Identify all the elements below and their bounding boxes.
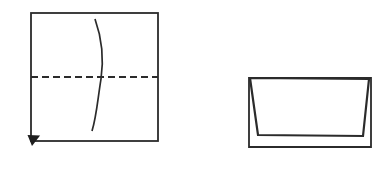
panel-folded-card [249, 78, 371, 147]
figure-root [0, 0, 388, 169]
front-flap-face [250, 78, 369, 136]
panel-unfolded-sheet [28, 13, 159, 146]
paper-folding-diagram [0, 0, 388, 169]
curved-crease-line [92, 19, 102, 131]
